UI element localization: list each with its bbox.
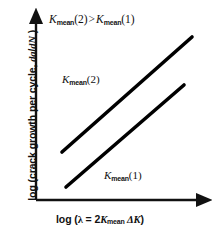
y-title-slash: /: [26, 49, 38, 52]
annotation-k2-index: (1): [121, 13, 134, 25]
curve1-index: (1): [129, 169, 142, 181]
y-title-dn: dN: [27, 36, 38, 49]
annotation-k1-symbol: K: [49, 13, 57, 25]
x-title-delta-k: ΔK: [125, 214, 141, 225]
curve-label-kmean2: Kmean(2): [62, 74, 100, 86]
curve2-index: (2): [87, 73, 100, 85]
annotation-operator: >: [88, 13, 97, 25]
annotation-inequality: Kmean(2)>Kmean(1): [49, 14, 135, 26]
curve1-subscript: mean: [111, 175, 129, 182]
y-title-da: da: [27, 52, 38, 62]
annotation-k1-index: (2): [74, 13, 87, 25]
x-title-k-subscript: mean: [107, 218, 125, 225]
curve2-subscript: mean: [69, 79, 87, 86]
x-title-close-paren: ): [140, 213, 143, 225]
curve-label-kmean1: Kmean(1): [104, 170, 142, 182]
x-title-k-symbol: K: [100, 214, 107, 225]
y-title-prefix: log (crack growth per cycle,: [26, 62, 38, 201]
x-title-log-prefix: log (: [56, 213, 78, 225]
annotation-k2-symbol: K: [96, 13, 104, 25]
annotation-k1-subscript: mean: [57, 19, 75, 26]
annotation-k2-subscript: mean: [104, 19, 122, 26]
y-axis-title: log (crack growth per cycle, da/dN ): [27, 31, 39, 201]
x-axis-title: log (λ = 2Kmean ΔK): [56, 214, 144, 226]
x-title-equals: = 2: [83, 213, 100, 225]
y-title-close: ): [26, 30, 38, 36]
figure-container: Kmean(2)>Kmean(1) Kmean(2) Kmean(1) log …: [0, 0, 216, 240]
